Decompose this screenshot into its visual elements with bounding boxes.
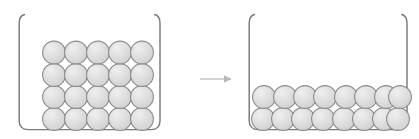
particle	[65, 41, 88, 64]
particle	[335, 86, 358, 109]
particle	[387, 108, 410, 131]
right-beaker	[249, 15, 411, 131]
particle	[389, 86, 412, 109]
particle	[333, 108, 356, 131]
particle	[109, 108, 132, 131]
right-beaker-particles	[252, 86, 412, 131]
particle	[274, 86, 297, 109]
particle	[43, 108, 66, 131]
particle	[87, 41, 110, 64]
particle	[87, 86, 110, 109]
particle	[65, 64, 88, 87]
particle	[355, 86, 378, 109]
left-beaker-particles	[43, 41, 154, 130]
beaker-transformation-figure	[0, 0, 419, 139]
particle	[109, 41, 132, 64]
particle	[131, 41, 154, 64]
left-beaker	[19, 15, 160, 131]
particle	[43, 64, 66, 87]
particle	[353, 108, 376, 131]
particle	[252, 108, 275, 131]
particle	[253, 86, 276, 109]
particle	[65, 108, 88, 131]
particle	[65, 86, 88, 109]
particle	[87, 108, 110, 131]
particle	[131, 64, 154, 87]
particle	[131, 86, 154, 109]
particle	[109, 86, 132, 109]
particle	[109, 64, 132, 87]
particle	[272, 108, 295, 131]
diagram-canvas	[0, 0, 419, 139]
particle	[294, 86, 317, 109]
particle	[314, 86, 337, 109]
particle	[131, 108, 154, 131]
particle	[87, 64, 110, 87]
particle	[292, 108, 315, 131]
particle	[312, 108, 335, 131]
particle	[43, 41, 66, 64]
particle	[43, 86, 66, 109]
